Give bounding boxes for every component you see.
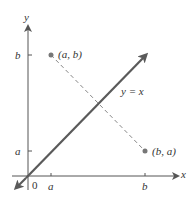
y-tick-label-b: b (15, 50, 21, 61)
point-a-b-label: (a, b) (58, 49, 82, 60)
point-b-a-label: (b, a) (152, 146, 176, 157)
point-a-b (49, 53, 54, 58)
y-axis-label: y (24, 12, 29, 23)
y-tick-label-a: a (15, 146, 21, 157)
line-y-equals-x (26, 55, 146, 178)
x-axis-label: x (181, 169, 186, 180)
point-b-a (143, 149, 148, 154)
origin-label: 0 (32, 180, 38, 191)
x-tick-label-a: a (48, 181, 54, 192)
diagram-canvas (0, 0, 192, 206)
line-label: y = x (121, 86, 144, 97)
x-tick-label-b: b (142, 181, 148, 192)
line-y-equals-x-tail (16, 178, 26, 188)
reflection-diagram: y x b a 0 a b (a, b) (b, a) y = x (0, 0, 192, 206)
